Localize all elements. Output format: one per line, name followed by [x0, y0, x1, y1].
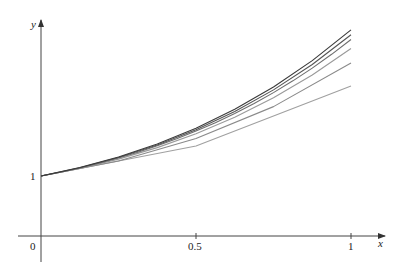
series-group: [41, 30, 351, 176]
origin-label: 0: [30, 240, 36, 252]
series-line-3: [41, 49, 351, 176]
chart: y x 0 0.5 1 1: [0, 0, 403, 272]
x-axis-label: x: [377, 237, 383, 249]
x-tick-label-one: 1: [348, 240, 354, 252]
y-axis-label: y: [30, 18, 36, 30]
y-tick-label-one: 1: [30, 170, 36, 182]
x-tick-label-half: 0.5: [188, 240, 202, 252]
series-line-5: [41, 35, 351, 176]
series-line-6: [41, 30, 351, 176]
series-line-4: [41, 39, 351, 176]
